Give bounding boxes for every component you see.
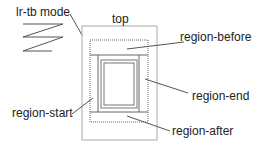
region-start-label: region-start — [12, 107, 73, 119]
top-label: top — [112, 13, 129, 25]
region-before-leader — [127, 42, 184, 49]
lr-tb-zigzag-icon — [23, 24, 63, 51]
fo-regions-diagram: lr-tb mode top region-before region-end … — [0, 0, 267, 147]
region-body-inner — [104, 63, 134, 105]
region-end-leader — [145, 79, 188, 93]
region-end-label: region-end — [192, 90, 249, 102]
mode-leader-line — [70, 14, 82, 35]
region-after-label: region-after — [172, 125, 233, 137]
region-before-label: region-before — [180, 31, 251, 43]
region-body-outer — [101, 60, 137, 108]
mode-label: lr-tb mode — [16, 6, 70, 18]
